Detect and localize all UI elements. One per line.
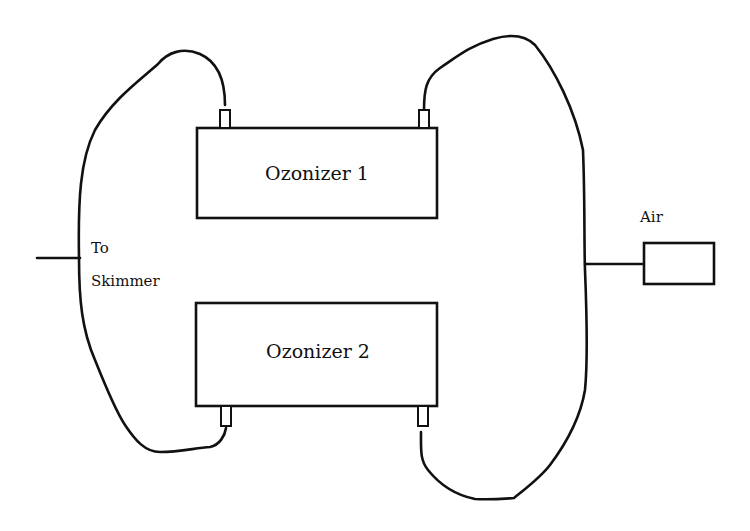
ozonizer-1-inlet-connector	[220, 110, 230, 128]
ozonizer-2: Ozonizer 2	[196, 303, 437, 426]
ozonizer-1-label: Ozonizer 1	[265, 162, 369, 184]
skimmer-label-line2: Skimmer	[91, 272, 160, 290]
air-pump: Air	[639, 208, 714, 284]
air-label: Air	[639, 208, 664, 226]
ozonizer-2-label: Ozonizer 2	[266, 340, 370, 362]
skimmer-label-line1: To	[91, 239, 109, 257]
ozonizer-diagram: Ozonizer 1 Ozonizer 2 Air To Skimmer	[0, 0, 750, 531]
ozonizer-1-outlet-connector	[419, 110, 429, 128]
right-tubing	[421, 36, 587, 499]
ozonizer-1: Ozonizer 1	[197, 110, 437, 218]
ozonizer-2-inlet-connector	[221, 406, 231, 426]
ozonizer-2-outlet-connector	[418, 406, 428, 426]
